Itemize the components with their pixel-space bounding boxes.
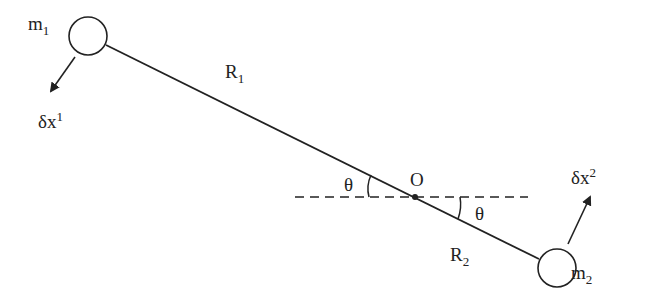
radius-1-label: R1: [225, 62, 244, 85]
origin-label: O: [410, 170, 424, 189]
mass-1-label: m1: [28, 14, 49, 37]
displacement-1-arrow: [51, 57, 75, 91]
angle-arc-1: [368, 175, 371, 197]
angle-1-label: θ: [344, 175, 353, 194]
angle-arc-2: [458, 197, 461, 219]
angle-2-label: θ: [475, 204, 484, 223]
rod-line: [106, 45, 539, 259]
displacement-1-label: δx1: [38, 110, 63, 131]
radius-2-label: R2: [450, 245, 469, 268]
mass-1-circle: [69, 17, 107, 55]
displacement-2-label: δx2: [571, 166, 596, 187]
mass-2-label: m2: [571, 263, 592, 286]
origin-point: [412, 194, 418, 200]
displacement-2-arrow: [568, 197, 590, 244]
diagram-canvas: [0, 0, 647, 305]
